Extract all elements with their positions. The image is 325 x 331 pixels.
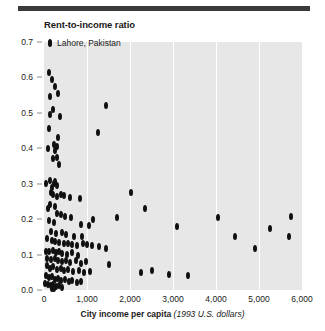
x-tick-label-4000: 4,000 [205,294,226,304]
x-tick-label-0: 0 [42,294,47,304]
chart-legend: Lahore, Pakistan [48,38,121,48]
x-tick-label-3000: 3,000 [162,294,183,304]
x-axis: 01,0002,0003,0004,0005,0006,000 [0,0,325,331]
diamond-marker-icon [48,40,52,47]
x-axis-title: City income per capita (1993 U.S. dollar… [0,309,325,319]
x-tick-label-5000: 5,000 [248,294,269,304]
x-tick-label-1000: 1,000 [76,294,97,304]
x-tick-label-2000: 2,000 [119,294,140,304]
legend-label-lahore: Lahore, Pakistan [57,38,121,48]
x-tick-label-6000: 6,000 [291,294,312,304]
x-axis-title-main: City income per capita [81,309,172,319]
x-axis-title-units: (1993 U.S. dollars) [174,309,245,319]
